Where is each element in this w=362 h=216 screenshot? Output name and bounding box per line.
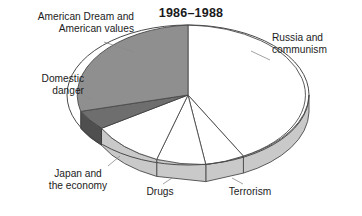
chart-title: 1986–1988 [131, 6, 251, 20]
slice-label-russia-and-communism: Russia and communism [272, 32, 358, 57]
slice-label-drugs: Drugs [134, 186, 186, 198]
slice-label-american-dream: American Dream and American values [18, 11, 134, 36]
slice-label-terrorism: Terrorism [216, 186, 284, 198]
pie-chart-figure: 1986–1988 American Dream and American va… [0, 0, 362, 216]
leader-line-japan [108, 156, 120, 166]
leader-line-terrorism [232, 178, 243, 184]
slice-label-domestic-danger: Domestic danger [12, 73, 84, 98]
leader-line-drugs [163, 178, 172, 184]
slice-label-japan-and-the-economy: Japan and the economy [34, 168, 122, 193]
